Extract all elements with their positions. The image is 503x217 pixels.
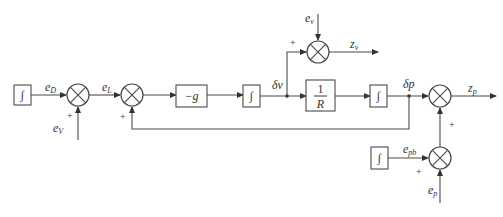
gain-block-neg-g: −g (176, 85, 207, 107)
summing-junction-2 (121, 84, 143, 106)
summing-junction-1 (67, 84, 89, 106)
plus-sign: + (120, 111, 126, 122)
integrator-block-2: ∫ (243, 85, 260, 107)
label-eD: eD (45, 80, 56, 95)
label-dv: δv (272, 78, 284, 92)
feedback-dp-line (132, 96, 409, 129)
svg-text:1: 1 (318, 82, 324, 96)
signal-dv-branch (287, 52, 306, 96)
svg-text:∫: ∫ (376, 89, 381, 103)
svg-text:R: R (316, 97, 325, 111)
svg-text:−g: −g (184, 89, 198, 103)
label-ep: ep (428, 183, 437, 198)
label-epb: epb (403, 142, 416, 157)
integrator-block-4: ∫ (371, 147, 388, 169)
plus-sign: + (290, 37, 296, 48)
svg-text:∫: ∫ (377, 151, 382, 165)
summing-junction-v (307, 41, 329, 63)
block-diagram: ∫ eD + eV eL + −g ∫ δv + ev zv (0, 0, 503, 217)
plus-sign: + (67, 110, 73, 121)
label-eL: eL (102, 80, 112, 95)
label-zp: zp (467, 81, 477, 96)
label-dp: δp (403, 77, 415, 91)
integrator-block-1: ∫ (14, 85, 31, 105)
plus-sign: + (449, 119, 455, 130)
integrator-block-3: ∫ (370, 85, 387, 107)
reciprocal-R-block: 1 R (306, 80, 335, 111)
svg-text:∫: ∫ (20, 88, 25, 102)
svg-text:∫: ∫ (249, 89, 254, 103)
label-zv: zv (349, 37, 359, 52)
summing-junction-p (429, 85, 451, 107)
summing-junction-pb (429, 147, 451, 169)
label-ev: ev (305, 11, 314, 26)
label-eV: eV (53, 121, 64, 136)
plus-sign: + (416, 166, 422, 177)
